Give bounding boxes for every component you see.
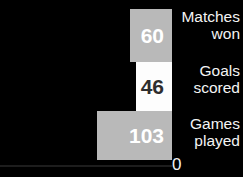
bar-value-games-played: 103 [129,125,172,146]
x-axis-tick-zero: 0 [172,156,181,173]
bar-value-matches-won: 60 [141,25,172,46]
bar-goals-scored[interactable]: 46 [136,62,172,111]
category-label-games-played: Games played [190,115,240,149]
category-label-matches-won: Matches won [181,8,240,42]
bar-matches-won[interactable]: 60 [130,9,172,62]
x-axis-line [0,165,172,167]
bar-value-goals-scored: 46 [141,76,172,97]
bar-games-played[interactable]: 103 [97,111,172,160]
horizontal-bar-chart: 60 46 103 0 Matches won Goals scored Gam… [0,0,243,177]
category-label-goals-scored: Goals scored [193,62,240,96]
